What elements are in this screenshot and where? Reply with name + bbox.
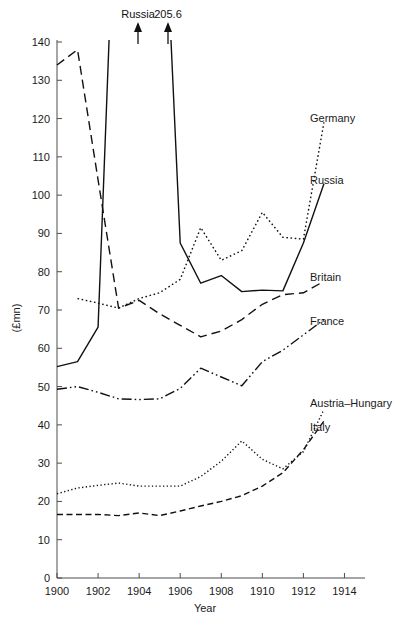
y-tick-label: 70 <box>38 304 50 316</box>
x-tick-label: 1904 <box>127 585 151 597</box>
annotation-arrow-head-1 <box>164 22 172 32</box>
y-tick-label: 60 <box>38 342 50 354</box>
y-tick-label: 10 <box>38 534 50 546</box>
x-tick-label: 1902 <box>86 585 110 597</box>
x-axis-title: Year <box>194 602 217 614</box>
y-axis-ticks <box>57 42 62 578</box>
x-axis-tick-labels: 19001902190419061908191019121914 <box>45 585 357 597</box>
series-label-france: France <box>310 315 344 327</box>
series-label-britain: Britain <box>310 271 341 283</box>
series-line-britain <box>57 50 324 337</box>
x-tick-label: 1900 <box>45 585 69 597</box>
y-tick-label: 0 <box>44 572 50 584</box>
x-tick-label: 1914 <box>332 585 356 597</box>
y-axis-title: (£mn) <box>10 304 22 333</box>
series-label-austria-hungary: Austria–Hungary <box>310 397 392 409</box>
y-tick-label: 120 <box>32 113 50 125</box>
y-tick-label: 130 <box>32 74 50 86</box>
y-tick-label: 40 <box>38 419 50 431</box>
y-axis-tick-labels: 0102030405060708090100110120130140 <box>32 36 50 584</box>
annotation-label-1: 205.6 <box>154 8 182 20</box>
line-chart-svg: 0102030405060708090100110120130140 19001… <box>0 0 405 632</box>
chart-figure: 0102030405060708090100110120130140 19001… <box>0 0 405 632</box>
series-label-italy: Italy <box>310 421 331 433</box>
y-tick-label: 140 <box>32 36 50 48</box>
y-tick-label: 30 <box>38 457 50 469</box>
series-line-russia <box>57 0 324 367</box>
x-tick-label: 1910 <box>250 585 274 597</box>
y-tick-label: 50 <box>38 381 50 393</box>
annotation-label-0: Russia <box>121 8 156 20</box>
x-tick-label: 1912 <box>291 585 315 597</box>
y-tick-label: 100 <box>32 189 50 201</box>
series-label-germany: Germany <box>310 112 356 124</box>
y-tick-label: 90 <box>38 227 50 239</box>
y-tick-label: 80 <box>38 266 50 278</box>
annotation-arrow-head-0 <box>134 22 142 32</box>
y-tick-label: 20 <box>38 495 50 507</box>
x-axis-ticks <box>57 573 344 578</box>
data-series-group <box>57 0 324 516</box>
y-tick-label: 110 <box>32 151 50 163</box>
series-label-russia: Russia <box>310 174 345 186</box>
series-label-group: GermanyRussiaBritainFranceAustria–Hungar… <box>310 112 392 433</box>
x-tick-label: 1908 <box>209 585 233 597</box>
offscale-annotations: Russia205.6 <box>121 8 182 44</box>
series-line-austria-hungary <box>57 410 324 494</box>
series-line-italy <box>57 421 324 516</box>
x-tick-label: 1906 <box>168 585 192 597</box>
